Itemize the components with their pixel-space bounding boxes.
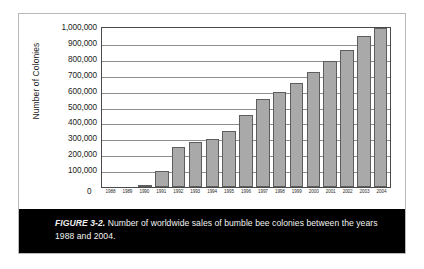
x-axis-tick-label: 1999 xyxy=(288,190,305,202)
bar-slot xyxy=(288,28,305,187)
bar-slot xyxy=(187,28,204,187)
x-axis-tick-label: 2003 xyxy=(356,190,373,202)
bar xyxy=(374,28,387,187)
bar-slot xyxy=(355,28,372,187)
figure-number-label: FIGURE 3-2. xyxy=(55,218,105,228)
y-axis-tick-label: 900,000 xyxy=(37,40,97,48)
bar xyxy=(189,142,202,187)
bar-slot xyxy=(120,28,137,187)
bar-slot xyxy=(339,28,356,187)
x-axis-tick-label: 1993 xyxy=(187,190,204,202)
chart-panel: Number of Colonies 1,000,000900,000800,0… xyxy=(19,14,405,211)
y-axis-tick-label: 1,000,000 xyxy=(37,24,97,32)
bar-slot xyxy=(372,28,389,187)
x-axis-tick-label: 1998 xyxy=(271,190,288,202)
x-axis-tick-label: 1990 xyxy=(136,190,153,202)
bar-slot xyxy=(103,28,120,187)
bar xyxy=(340,50,353,187)
y-axis-tick-label: 700,000 xyxy=(37,72,97,80)
bar xyxy=(138,185,151,187)
y-axis-tick-label: 400,000 xyxy=(37,119,97,127)
x-axis-tick-label: 1997 xyxy=(254,190,271,202)
plot-area xyxy=(101,27,391,188)
bar xyxy=(239,115,252,187)
bar-slot xyxy=(322,28,339,187)
bar xyxy=(273,92,286,187)
bar-series xyxy=(102,28,390,187)
bar xyxy=(222,131,235,187)
x-axis-tick-label: 1994 xyxy=(204,190,221,202)
y-axis-tick-label: 800,000 xyxy=(37,56,97,64)
x-axis-tick-label: 1989 xyxy=(119,190,136,202)
y-axis-tick-label: 100,000 xyxy=(37,167,97,175)
bar xyxy=(256,99,269,187)
x-axis-tick-label: 2004 xyxy=(373,190,390,202)
x-axis-tick-label: 2000 xyxy=(305,190,322,202)
bar xyxy=(323,61,336,187)
caption-band: FIGURE 3-2. Number of worldwide sales of… xyxy=(19,209,405,253)
bar-slot xyxy=(221,28,238,187)
bar-slot xyxy=(153,28,170,187)
y-axis-tick-labels: 1,000,000900,000800,000700,000600,000500… xyxy=(37,27,97,188)
bar-slot xyxy=(271,28,288,187)
bar-slot xyxy=(204,28,221,187)
x-axis-tick-label: 1996 xyxy=(238,190,255,202)
figure-caption: FIGURE 3-2. Number of worldwide sales of… xyxy=(55,217,381,243)
bar xyxy=(357,36,370,187)
x-axis-tick-label: 2002 xyxy=(339,190,356,202)
bar-slot xyxy=(238,28,255,187)
bar xyxy=(206,139,219,187)
y-axis-tick-label: 600,000 xyxy=(37,87,97,95)
bar xyxy=(307,72,320,187)
y-axis-tick-label: 300,000 xyxy=(37,135,97,143)
x-axis-tick-label: 1992 xyxy=(170,190,187,202)
bar-slot xyxy=(170,28,187,187)
x-axis-tick-label: 1991 xyxy=(153,190,170,202)
bar xyxy=(155,171,168,187)
y-axis-tick-label: 500,000 xyxy=(37,103,97,111)
y-axis-tick-label: 200,000 xyxy=(37,151,97,159)
bar-slot xyxy=(305,28,322,187)
figure-container: Number of Colonies 1,000,000900,000800,0… xyxy=(18,13,406,254)
x-axis-tick-label: 1988 xyxy=(102,190,119,202)
bar xyxy=(290,83,303,187)
x-axis-tick-label: 1995 xyxy=(221,190,238,202)
bar-slot xyxy=(137,28,154,187)
x-axis-tick-label: 2001 xyxy=(322,190,339,202)
bar xyxy=(172,147,185,187)
y-axis-origin-label: 0 xyxy=(87,188,92,196)
x-axis-tick-labels: 1988198919901991199219931994199519961997… xyxy=(101,190,391,202)
bar-slot xyxy=(254,28,271,187)
